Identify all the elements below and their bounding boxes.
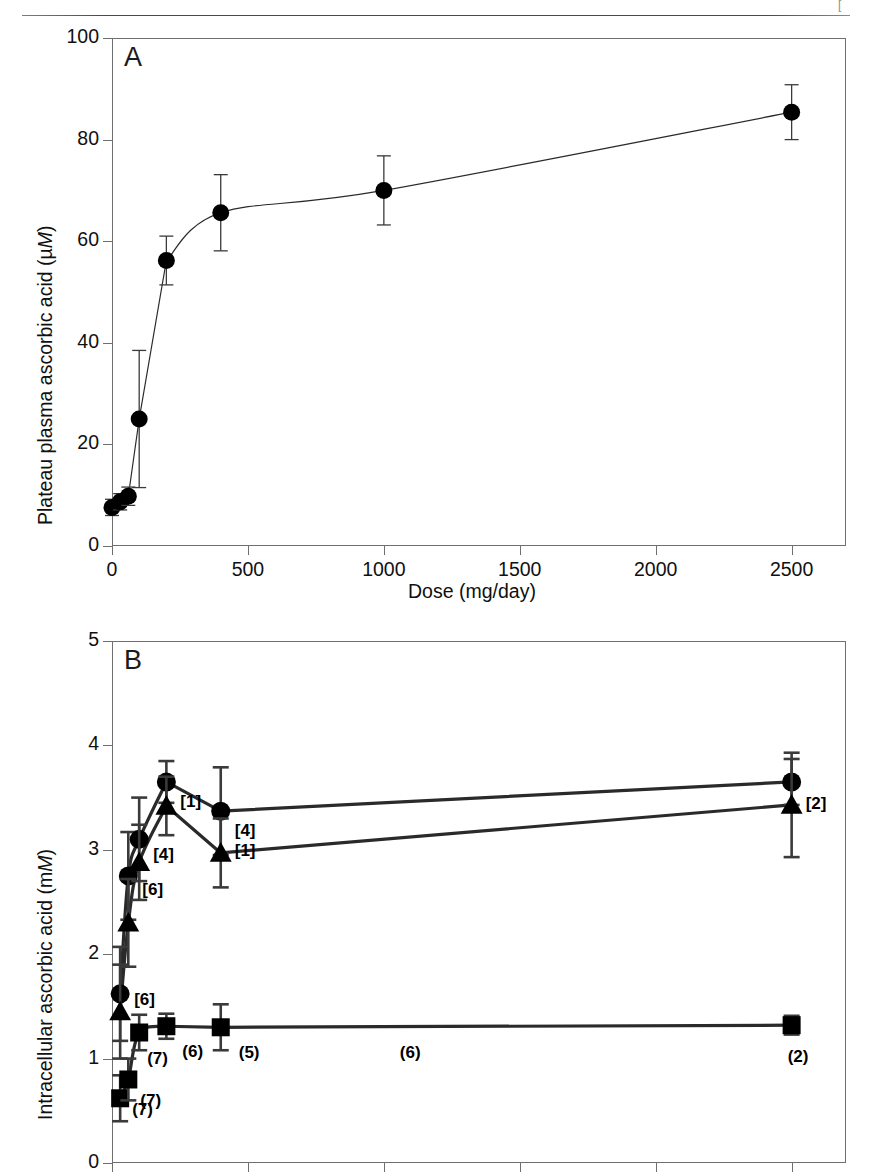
panel-b-annotation: [6] — [134, 990, 155, 1010]
panel-b-annotation: (6) — [182, 1042, 203, 1062]
panel-a: A Plateau plasma ascorbic acid (µM) Dose… — [0, 0, 870, 620]
panel-b-annotation: [1] — [180, 792, 201, 812]
panel-a-series-line — [112, 112, 792, 507]
panel-b: B Intracellular ascorbic acid (mM) 01234… — [0, 620, 870, 1161]
panel-b-annotation: (7) — [140, 1091, 161, 1111]
panel-b-annotation: [2] — [806, 794, 827, 814]
x-tick — [656, 1163, 657, 1172]
y-tick — [103, 1163, 112, 1164]
panel-b-annotation: [1] — [235, 841, 256, 861]
panel-b-annotation: (2) — [788, 1047, 809, 1067]
panel-b-annotation: [4] — [153, 845, 174, 865]
x-tick — [112, 1163, 113, 1172]
x-tick — [384, 1163, 385, 1172]
panel-b-annotation: [6] — [142, 880, 163, 900]
panel-a-canvas — [0, 0, 870, 620]
panel-b-annotation: (5) — [239, 1043, 260, 1063]
panel-b-annotation: [4] — [235, 821, 256, 841]
x-tick — [792, 1163, 793, 1172]
panel-b-annotation: (7) — [147, 1049, 168, 1069]
x-tick — [520, 1163, 521, 1172]
panel-b-canvas — [0, 620, 870, 1161]
panel-b-annotation: (6) — [400, 1043, 421, 1063]
x-tick — [248, 1163, 249, 1172]
